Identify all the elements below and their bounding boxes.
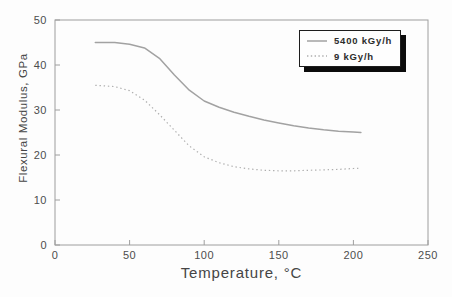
x-tick-label: 50 xyxy=(113,249,147,261)
y-tick-label: 50 xyxy=(13,14,47,26)
legend-entry-9: 9 kGy/h xyxy=(300,49,400,64)
legend-box: 5400 kGy/h 9 kGy/h xyxy=(299,30,401,67)
chart-figure: 05010015020025001020304050 Temperature, … xyxy=(0,0,452,297)
y-tick-label: 10 xyxy=(13,194,47,206)
x-axis-title: Temperature, °C xyxy=(55,264,428,281)
x-tick-label: 250 xyxy=(411,249,445,261)
y-axis-title: Flexural Modulus, GPa xyxy=(17,53,29,183)
series-curve-1 xyxy=(95,85,361,171)
y-tick-label: 0 xyxy=(13,239,47,251)
x-tick-label: 200 xyxy=(336,249,370,261)
x-tick-label: 150 xyxy=(262,249,296,261)
legend-solid-line-icon xyxy=(307,38,327,44)
legend-label-9: 9 kGy/h xyxy=(334,51,374,62)
x-tick-label: 100 xyxy=(187,249,221,261)
legend-entry-5400: 5400 kGy/h xyxy=(300,33,400,48)
legend-label-5400: 5400 kGy/h xyxy=(334,35,392,46)
legend-dotted-line-icon xyxy=(307,53,327,59)
